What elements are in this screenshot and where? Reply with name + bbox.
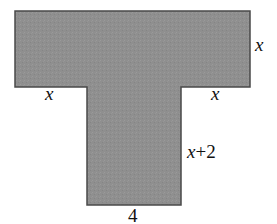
label-right-overhang: x	[211, 84, 219, 103]
label-stem-height: x+2	[187, 142, 216, 161]
label-stem-height-rest: +2	[195, 141, 215, 162]
t-shape-polygon	[15, 11, 250, 205]
t-shape-diagram: x x x x+2 4	[0, 0, 277, 224]
label-stem-width: 4	[128, 206, 138, 224]
label-top-height: x	[255, 35, 263, 54]
label-left-overhang: x	[45, 84, 53, 103]
t-shape-svg	[0, 0, 277, 224]
